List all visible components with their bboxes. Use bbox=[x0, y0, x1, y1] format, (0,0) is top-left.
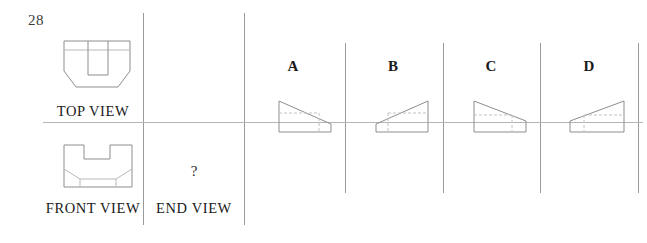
option-label-c[interactable]: C bbox=[479, 58, 503, 75]
option-shape-c[interactable] bbox=[472, 99, 528, 134]
divider-vertical-2 bbox=[244, 13, 245, 225]
divider-horizontal bbox=[43, 122, 643, 123]
divider-vertical-5 bbox=[540, 43, 541, 193]
question-number: 28 bbox=[28, 12, 44, 29]
option-shape-b[interactable] bbox=[374, 99, 430, 134]
divider-vertical-1 bbox=[143, 13, 144, 225]
top-view-drawing bbox=[62, 39, 132, 91]
divider-vertical-4 bbox=[443, 43, 444, 193]
divider-vertical-3 bbox=[345, 43, 346, 193]
option-shape-a[interactable] bbox=[277, 99, 333, 134]
top-view-label: TOP VIEW bbox=[43, 103, 143, 120]
option-shape-d[interactable] bbox=[568, 99, 626, 134]
option-label-d[interactable]: D bbox=[577, 58, 601, 75]
front-view-label: FRONT VIEW bbox=[43, 200, 143, 217]
option-label-a[interactable]: A bbox=[281, 58, 305, 75]
front-view-drawing bbox=[62, 143, 134, 189]
end-view-question-mark: ? bbox=[184, 163, 204, 180]
end-view-label: END VIEW bbox=[144, 200, 244, 217]
option-label-b[interactable]: B bbox=[381, 58, 405, 75]
divider-vertical-6 bbox=[638, 43, 639, 193]
worksheet-page: 28 TOP VIEW FRONT VIEW ? END VIE bbox=[0, 0, 647, 243]
